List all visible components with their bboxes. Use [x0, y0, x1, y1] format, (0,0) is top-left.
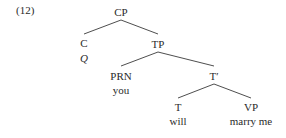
branch-tp-tbar [158, 52, 214, 66]
branch-tp-prn [121, 52, 158, 66]
node-cp: CP [114, 6, 127, 18]
node-c: C [80, 37, 87, 49]
node-tbar: T′ [209, 70, 218, 82]
leaf-t-will: will [169, 115, 186, 127]
node-t: T [175, 101, 182, 113]
branch-cp-tp [121, 20, 158, 34]
node-vp: VP [244, 101, 258, 113]
leaf-vp-marry-me: marry me [230, 115, 272, 127]
example-number: (12) [16, 4, 34, 16]
branch-tbar-t [178, 84, 214, 98]
branch-tbar-vp [214, 84, 251, 98]
leaf-prn-you: you [113, 84, 130, 96]
node-prn: PRN [110, 70, 131, 82]
node-tp: TP [152, 38, 165, 50]
leaf-c-q: Q [80, 52, 88, 64]
branch-cp-c [84, 20, 121, 34]
